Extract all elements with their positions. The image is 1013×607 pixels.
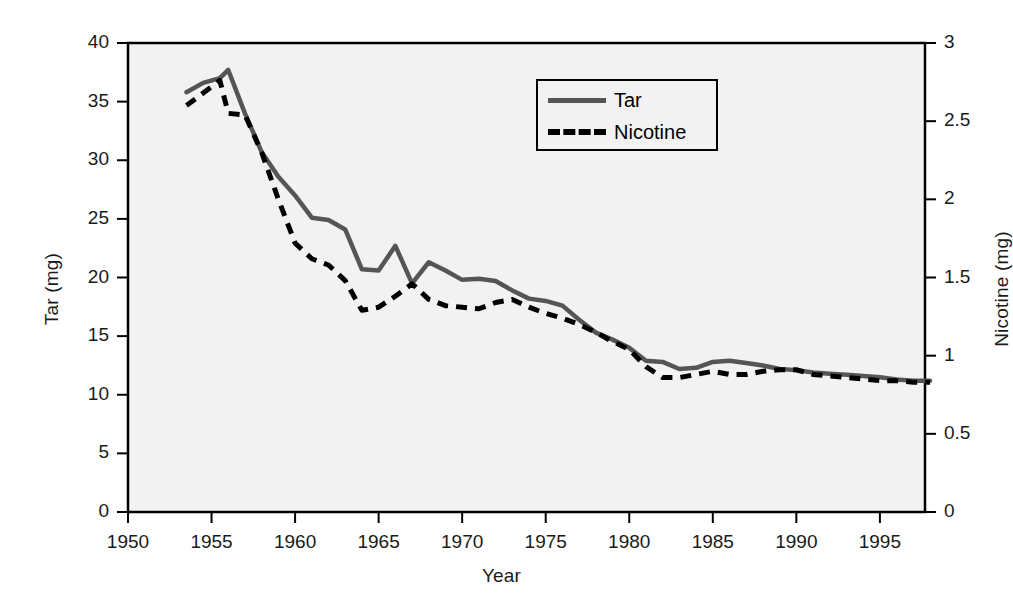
y-right-tick-label: 0.5: [944, 422, 1004, 444]
legend-line-solid-icon: [548, 92, 606, 108]
legend-line-dashed-icon: [548, 124, 606, 140]
x-axis-title: Year: [0, 565, 1003, 587]
y-left-tick-label: 35: [49, 90, 109, 112]
x-tick-label: 1965: [344, 531, 414, 553]
y-right-tick-marks: [925, 43, 936, 512]
y-left-tick-marks: [117, 43, 128, 512]
y-left-tick-label: 10: [49, 383, 109, 405]
y-left-tick-label: 20: [49, 266, 109, 288]
legend-item-nicotine: Nicotine: [548, 117, 686, 147]
x-tick-label: 1980: [594, 531, 664, 553]
plot-background: [128, 43, 925, 512]
legend-label-tar: Tar: [614, 89, 642, 112]
y-left-tick-label: 5: [49, 441, 109, 463]
x-tick-label: 1950: [93, 531, 163, 553]
legend-label-nicotine: Nicotine: [614, 121, 686, 144]
y-right-tick-label: 1.5: [944, 266, 1004, 288]
y-left-tick-label: 15: [49, 324, 109, 346]
x-tick-label: 1990: [761, 531, 831, 553]
y-right-tick-label: 2.5: [944, 109, 1004, 131]
y-right-tick-label: 3: [944, 31, 1004, 53]
x-tick-label: 1970: [427, 531, 497, 553]
y-right-tick-label: 0: [944, 500, 1004, 522]
x-tick-label: 1955: [177, 531, 247, 553]
x-tick-label: 1985: [678, 531, 748, 553]
x-tick-label: 1995: [845, 531, 915, 553]
legend-item-tar: Tar: [548, 85, 642, 115]
x-tick-label: 1960: [260, 531, 330, 553]
y-left-tick-label: 40: [49, 31, 109, 53]
y-left-tick-label: 30: [49, 148, 109, 170]
y-right-tick-label: 2: [944, 187, 1004, 209]
y-left-tick-label: 0: [49, 500, 109, 522]
chart-legend: Tar Nicotine: [536, 79, 718, 151]
x-tick-marks: [128, 512, 880, 523]
y-left-tick-label: 25: [49, 207, 109, 229]
y-right-tick-label: 1: [944, 344, 1004, 366]
x-tick-label: 1975: [511, 531, 581, 553]
